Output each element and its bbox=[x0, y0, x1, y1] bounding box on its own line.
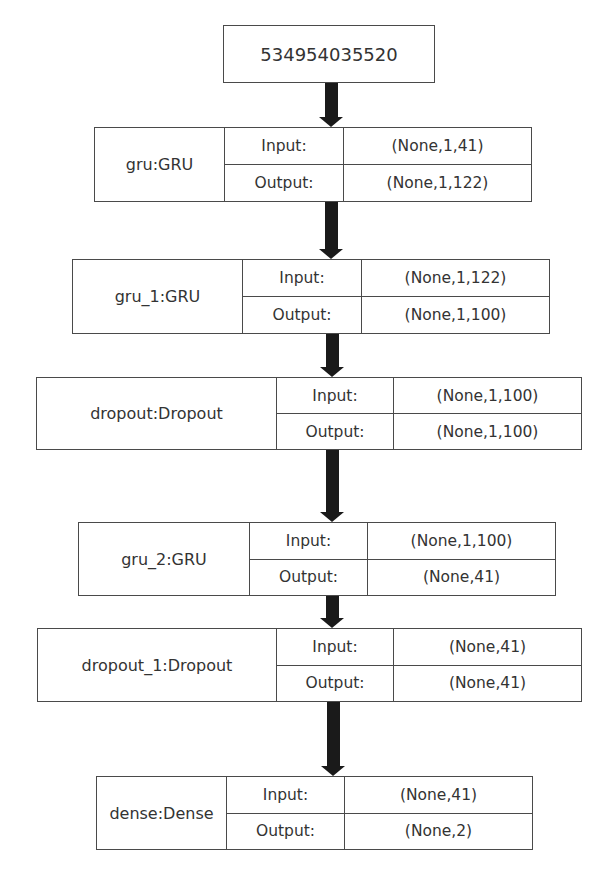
input-node: 534954035520 bbox=[223, 25, 435, 83]
input-shape: (None,41) bbox=[394, 629, 581, 666]
layer-gru: gru:GRU Input: Output: (None,1,41) (None… bbox=[94, 127, 532, 202]
output-shape: (None,1,100) bbox=[362, 297, 549, 333]
input-node-label: 534954035520 bbox=[260, 44, 397, 65]
arrow-down-icon bbox=[320, 334, 345, 377]
layer-name: dropout:Dropout bbox=[37, 378, 277, 449]
output-shape: (None,1,100) bbox=[394, 414, 581, 449]
output-shape: (None,41) bbox=[394, 666, 581, 702]
output-shape: (None,41) bbox=[368, 560, 555, 596]
layer-name: gru_1:GRU bbox=[73, 260, 243, 333]
input-label: Input: bbox=[225, 128, 343, 165]
layer-dropout: dropout:Dropout Input: Output: (None,1,1… bbox=[36, 377, 582, 450]
input-label: Input: bbox=[250, 523, 367, 560]
output-label: Output: bbox=[277, 414, 393, 449]
layer-name: dropout_1:Dropout bbox=[38, 629, 277, 701]
layer-gru-2: gru_2:GRU Input: Output: (None,1,100) (N… bbox=[78, 522, 556, 596]
output-label: Output: bbox=[243, 297, 361, 333]
input-label: Input: bbox=[227, 777, 344, 814]
input-shape: (None,1,41) bbox=[344, 128, 531, 165]
output-label: Output: bbox=[277, 666, 393, 702]
layer-dense: dense:Dense Input: Output: (None,41) (No… bbox=[96, 776, 533, 850]
arrow-down-icon bbox=[319, 202, 344, 259]
layer-name: gru_2:GRU bbox=[79, 523, 250, 595]
arrow-down-icon bbox=[320, 450, 345, 522]
input-shape: (None,1,100) bbox=[368, 523, 555, 560]
arrow-down-icon bbox=[321, 702, 346, 776]
output-label: Output: bbox=[225, 165, 343, 201]
input-shape: (None,1,122) bbox=[362, 260, 549, 297]
output-label: Output: bbox=[227, 814, 344, 850]
arrow-down-icon bbox=[319, 83, 344, 127]
arrow-down-icon bbox=[320, 596, 345, 628]
input-label: Input: bbox=[277, 378, 393, 414]
input-shape: (None,1,100) bbox=[394, 378, 581, 414]
layer-name: dense:Dense bbox=[97, 777, 227, 849]
layer-dropout-1: dropout_1:Dropout Input: Output: (None,4… bbox=[37, 628, 582, 702]
output-label: Output: bbox=[250, 560, 367, 596]
input-label: Input: bbox=[243, 260, 361, 297]
layer-name: gru:GRU bbox=[95, 128, 225, 201]
input-label: Input: bbox=[277, 629, 393, 666]
input-shape: (None,41) bbox=[345, 777, 532, 814]
output-shape: (None,1,122) bbox=[344, 165, 531, 201]
layer-gru-1: gru_1:GRU Input: Output: (None,1,122) (N… bbox=[72, 259, 550, 334]
output-shape: (None,2) bbox=[345, 814, 532, 850]
